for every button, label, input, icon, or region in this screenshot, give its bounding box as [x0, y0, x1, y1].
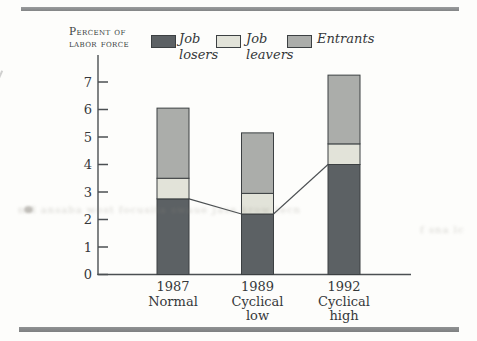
bar-segment-1989-entrants [242, 133, 274, 194]
job-losers-connector-line-1 [189, 199, 242, 214]
y-tick-label-3: 3 [74, 185, 92, 200]
bar-segment-1989-leavers [242, 193, 274, 214]
bar-segment-1987-entrants [157, 108, 189, 178]
bar-segment-1987-leavers [157, 178, 189, 199]
y-tick-label-6: 6 [74, 102, 92, 117]
x-category-label-1989: 1989 Cyclical low [216, 280, 300, 324]
x-category-label-1987: 1987 Normal [131, 280, 215, 309]
y-tick-label-2: 2 [74, 212, 92, 227]
bar-segment-1992-entrants [328, 75, 360, 144]
y-tick-label-0: 0 [74, 267, 92, 282]
scanned-figure-page: Percent of labor force Job losers Job le… [0, 0, 477, 341]
bar-segment-1992-leavers [328, 144, 360, 165]
y-tick-label-5: 5 [74, 130, 92, 145]
y-tick-label-1: 1 [74, 240, 92, 255]
bar-segment-1989-losers [242, 214, 274, 275]
bar-segment-1987-losers [157, 199, 189, 275]
bar-segment-1992-losers [328, 165, 360, 275]
y-tick-label-4: 4 [74, 157, 92, 172]
y-tick-label-7: 7 [74, 75, 92, 90]
print-bleed-dot [24, 206, 33, 213]
job-losers-connector-line-2 [274, 165, 329, 215]
x-category-label-1992: 1992 Cyclical high [302, 280, 386, 324]
